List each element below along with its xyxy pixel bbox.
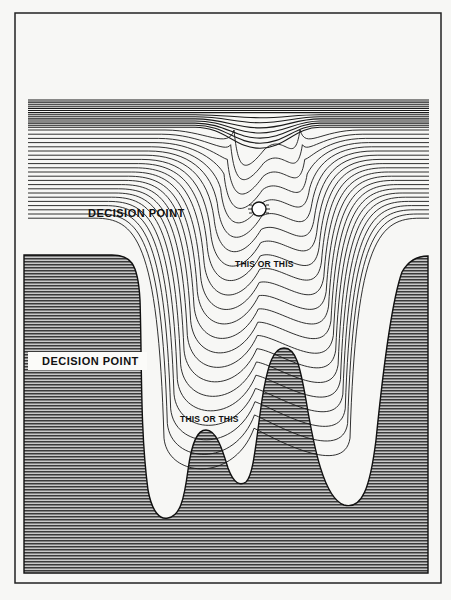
this-or-this-label-upper: THIS OR THIS bbox=[235, 259, 294, 269]
decision-point-label-upper: DECISION POINT bbox=[88, 207, 185, 219]
this-or-this-label-lower: THIS OR THIS bbox=[180, 414, 239, 424]
contour-diagram bbox=[0, 0, 451, 600]
diagram-stage: DECISION POINT DECISION POINT THIS OR TH… bbox=[0, 0, 451, 600]
decision-point-label-lower: DECISION POINT bbox=[28, 352, 147, 370]
